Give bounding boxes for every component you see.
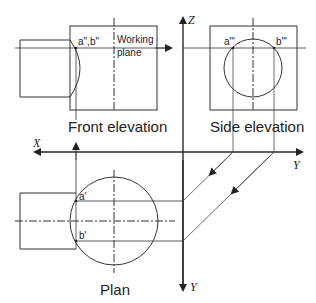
front-points-label: a",b" <box>78 37 99 47</box>
working-plane-label-2: plane <box>117 48 141 58</box>
axis-y-horizontal-label: Y <box>293 159 300 171</box>
plan-label: Plan <box>100 282 130 297</box>
front-elevation-label: Front elevation <box>68 119 167 134</box>
plan-view <box>15 152 183 273</box>
transfer-lines <box>183 152 274 241</box>
axis-z-label: Z <box>188 14 195 26</box>
working-plane-label-1: Working <box>117 35 154 45</box>
plan-point-a-label: a' <box>79 192 86 202</box>
diagram-drawing <box>0 0 316 303</box>
side-point-b-label: b"' <box>276 37 287 47</box>
orthographic-projection-diagram: Front elevation Side elevation Plan Work… <box>0 0 316 303</box>
axis-y-vertical-label: Y <box>190 281 197 293</box>
axis-x-label: X <box>33 137 40 149</box>
side-elevation-label: Side elevation <box>210 119 304 134</box>
side-point-a-label: a"' <box>224 37 235 47</box>
plan-point-b-label: b' <box>79 231 86 241</box>
front-cylinder <box>20 40 70 97</box>
